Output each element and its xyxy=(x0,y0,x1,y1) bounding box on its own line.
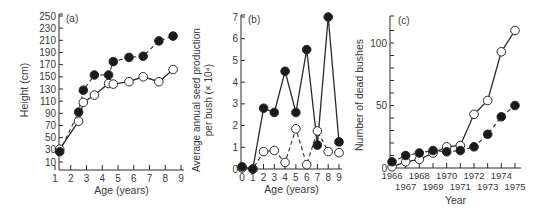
y-tick-label: 4 xyxy=(232,77,238,88)
open-circle-marker xyxy=(292,125,301,134)
filled-circle-marker xyxy=(139,52,148,61)
series-line-filled xyxy=(242,17,339,169)
x-tick-label: 1971 xyxy=(450,181,471,192)
open-circle-marker xyxy=(324,147,333,156)
filled-circle-marker xyxy=(238,163,247,172)
x-tick-label: 5 xyxy=(293,172,299,183)
panel-label: (c) xyxy=(398,15,410,26)
open-circle-marker xyxy=(281,158,290,167)
y-tick-label: 250 xyxy=(39,11,56,22)
filled-circle-marker xyxy=(388,158,397,167)
x-tick-label: 5 xyxy=(115,173,121,184)
filled-circle-marker xyxy=(401,151,410,160)
x-tick-label: 9 xyxy=(178,173,184,184)
x-tick-label: 1 xyxy=(52,173,58,184)
x-tick-label: 7 xyxy=(315,172,321,183)
y-tick-label: 90 xyxy=(45,108,57,119)
y-tick-label: 6 xyxy=(232,33,238,44)
open-circle-marker xyxy=(139,73,148,82)
filled-circle-marker xyxy=(429,146,438,155)
x-tick-label: 6 xyxy=(131,173,137,184)
filled-circle-marker xyxy=(442,148,451,157)
filled-circle-marker xyxy=(281,67,290,76)
y-tick-label: 3 xyxy=(232,98,238,109)
series-line-open xyxy=(392,31,515,167)
x-tick-label: 1969 xyxy=(422,181,443,192)
filled-circle-marker xyxy=(470,143,479,152)
filled-circle-marker xyxy=(415,149,424,158)
x-tick-label: 8 xyxy=(162,173,168,184)
y-tick-label: 70 xyxy=(45,120,57,131)
x-axis-label: Age (years) xyxy=(264,183,318,195)
x-tick-label: 2 xyxy=(261,172,267,183)
open-circle-marker xyxy=(74,117,83,126)
open-circle-marker xyxy=(169,65,178,74)
x-tick-label: 9 xyxy=(336,172,342,183)
y-tick-label: 170 xyxy=(39,59,56,70)
filled-circle-marker xyxy=(155,37,164,46)
open-circle-marker xyxy=(470,110,479,119)
panel-c-dead-bushes: 0501001966196719681969197019711972197319… xyxy=(353,15,526,206)
y-tick-label: 7 xyxy=(232,12,238,23)
filled-circle-marker xyxy=(104,71,113,80)
y-axis-label: Average annual seed productionper bush (… xyxy=(191,28,214,172)
y-tick-label: 100 xyxy=(370,38,387,49)
x-tick-label: 3 xyxy=(84,173,90,184)
x-tick-label: 4 xyxy=(99,173,105,184)
x-tick-label: 1970 xyxy=(436,170,457,181)
open-circle-marker xyxy=(497,48,506,57)
y-tick-label: 50 xyxy=(45,132,57,143)
y-tick-label: 110 xyxy=(40,96,56,107)
filled-circle-marker xyxy=(259,104,268,113)
chart-svg: 1030507090110130150170190210230250123456… xyxy=(0,0,545,214)
x-tick-label: 4 xyxy=(282,172,288,183)
y-axis-label: Height (cm) xyxy=(18,63,30,117)
filled-circle-marker xyxy=(169,32,178,41)
open-circle-marker xyxy=(90,91,99,100)
figure: 1030507090110130150170190210230250123456… xyxy=(0,0,545,214)
series-line-filled xyxy=(392,106,515,162)
panel-a-height: 1030507090110130150170190210230250123456… xyxy=(18,11,184,197)
filled-circle-marker xyxy=(456,146,465,155)
filled-circle-marker xyxy=(109,57,118,66)
filled-circle-marker xyxy=(324,13,333,22)
y-axis-label-line2: per bush (× 10⁴) xyxy=(203,64,214,136)
x-tick-label: 1974 xyxy=(491,170,512,181)
x-tick-label: 6 xyxy=(304,172,310,183)
filled-circle-marker xyxy=(302,45,311,54)
filled-circle-marker xyxy=(125,53,134,62)
y-tick-label: 50 xyxy=(376,100,388,111)
filled-circle-marker xyxy=(74,108,83,117)
y-tick-label: 2 xyxy=(232,120,238,131)
filled-circle-marker xyxy=(55,147,64,156)
open-circle-marker xyxy=(270,146,279,155)
open-circle-marker xyxy=(335,148,344,157)
x-axis-label: Year xyxy=(445,194,467,206)
open-circle-marker xyxy=(109,80,118,89)
panel-b-seed-production: 012345670123456789(b)Age (years)Average … xyxy=(191,12,343,196)
open-circle-marker xyxy=(302,160,311,169)
open-circle-marker xyxy=(511,26,520,35)
y-axis-label: Number of dead bushes xyxy=(353,39,365,151)
x-tick-label: 1968 xyxy=(409,170,430,181)
x-tick-label: 1966 xyxy=(381,170,402,181)
panel-label: (a) xyxy=(66,13,78,24)
y-axis-label-line1: Average annual seed production xyxy=(191,28,202,172)
filled-circle-marker xyxy=(497,113,506,122)
x-tick-label: 8 xyxy=(325,172,331,183)
open-circle-marker xyxy=(259,147,268,156)
y-tick-label: 190 xyxy=(39,47,56,58)
x-axis-label: Age (years) xyxy=(94,184,148,196)
filled-circle-marker xyxy=(90,71,99,80)
filled-circle-marker xyxy=(270,108,279,117)
x-tick-label: 7 xyxy=(147,173,153,184)
filled-circle-marker xyxy=(511,101,520,110)
x-tick-label: 1972 xyxy=(463,170,484,181)
y-tick-label: 1 xyxy=(232,142,238,153)
filled-circle-marker xyxy=(292,108,301,117)
open-circle-marker xyxy=(125,77,134,86)
y-tick-label: 230 xyxy=(39,23,56,34)
panel-label: (b) xyxy=(248,14,260,25)
x-tick-label: 1967 xyxy=(395,181,416,192)
x-tick-label: 0 xyxy=(239,172,245,183)
